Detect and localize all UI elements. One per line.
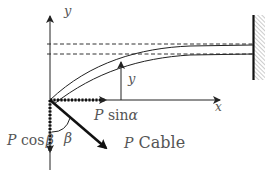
p-sin-alpha-force: P <box>94 107 103 123</box>
p-cos-beta-fn: cos <box>21 132 44 148</box>
cantilever-beam-diagram <box>0 0 276 180</box>
p-sin-alpha-angle: α <box>129 107 138 123</box>
deflection-label: y <box>128 72 135 85</box>
p-cos-beta-label: P cos β <box>7 133 54 147</box>
p-sin-alpha-fn: sin <box>108 107 129 123</box>
fixed-wall-support <box>254 15 266 80</box>
cable-label: P Cable <box>124 135 185 151</box>
x-axis-label: x <box>215 101 222 113</box>
p-sin-alpha-label: P sinα <box>94 108 138 122</box>
cable-force-symbol: P <box>124 135 133 151</box>
beta-angle-label: β <box>64 131 72 145</box>
p-cos-beta-angle: β <box>46 132 54 148</box>
y-axis-label: y <box>64 4 71 17</box>
p-cos-beta-force: P <box>7 132 16 148</box>
cable-text: Cable <box>139 133 186 152</box>
